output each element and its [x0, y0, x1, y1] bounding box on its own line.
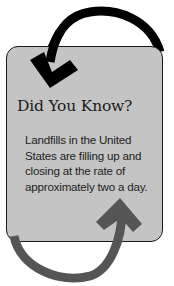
callout-title: Did You Know? — [17, 97, 167, 115]
callout-body: Landfills in the United States are filli… — [25, 132, 155, 194]
top-arrow-shaft — [50, 32, 60, 62]
